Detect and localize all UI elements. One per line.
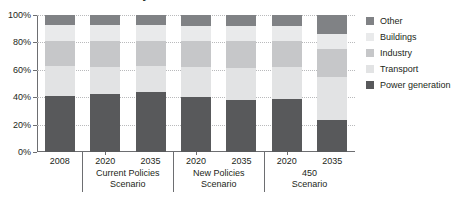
legend-swatch-icon bbox=[366, 81, 374, 89]
bar-segment-power-generation[interactable] bbox=[181, 97, 211, 152]
bar-segment-buildings[interactable] bbox=[45, 25, 75, 41]
bar-segment-other[interactable] bbox=[90, 15, 120, 25]
y-tick-mark bbox=[33, 70, 37, 71]
bar-segment-transport[interactable] bbox=[226, 68, 256, 100]
bar-segment-transport[interactable] bbox=[317, 77, 347, 121]
bar-segment-other[interactable] bbox=[317, 15, 347, 34]
bar-segment-transport[interactable] bbox=[181, 67, 211, 97]
x-tick-label: 2020 bbox=[277, 156, 297, 166]
bar-segment-power-generation[interactable] bbox=[226, 100, 256, 152]
x-tick-label: 2020 bbox=[95, 156, 115, 166]
group-label: New Policies Scenario bbox=[193, 168, 245, 190]
bar-segment-other[interactable] bbox=[272, 15, 302, 26]
legend-label: Other bbox=[380, 16, 403, 26]
x-tick-mark bbox=[287, 152, 288, 155]
legend-swatch-icon bbox=[366, 65, 374, 73]
legend-swatch-icon bbox=[366, 49, 374, 57]
group-label: Current Policies Scenario bbox=[96, 168, 160, 190]
bar-segment-buildings[interactable] bbox=[272, 26, 302, 41]
legend-swatch-icon bbox=[366, 17, 374, 25]
bar-segment-buildings[interactable] bbox=[136, 25, 166, 41]
chart-title: by sector and scenario bbox=[36, 0, 356, 2]
bar-segment-industry[interactable] bbox=[272, 41, 302, 67]
bar-segment-other[interactable] bbox=[181, 15, 211, 26]
x-axis: 2008202020352020203520202035Current Poli… bbox=[37, 152, 355, 198]
x-tick-label: 2020 bbox=[186, 156, 206, 166]
bar-segment-industry[interactable] bbox=[90, 41, 120, 67]
bar-segment-other[interactable] bbox=[45, 15, 75, 25]
legend-item-industry[interactable]: Industry bbox=[366, 45, 456, 61]
bar-segment-power-generation[interactable] bbox=[45, 96, 75, 152]
group-separator bbox=[264, 152, 265, 192]
chart-legend: OtherBuildingsIndustryTransportPower gen… bbox=[366, 13, 456, 93]
bar-segment-industry[interactable] bbox=[136, 41, 166, 66]
legend-label: Buildings bbox=[380, 32, 417, 42]
bar-segment-buildings[interactable] bbox=[90, 25, 120, 41]
group-separator bbox=[82, 152, 83, 192]
y-tick-label: 40% bbox=[13, 92, 31, 102]
legend-label: Industry bbox=[380, 48, 412, 58]
bar-segment-power-generation[interactable] bbox=[90, 94, 120, 152]
bar-segment-other[interactable] bbox=[136, 15, 166, 25]
x-tick-label: 2035 bbox=[141, 156, 161, 166]
bar-segment-industry[interactable] bbox=[226, 41, 256, 68]
bar-2020[interactable] bbox=[90, 15, 120, 152]
legend-item-buildings[interactable]: Buildings bbox=[366, 29, 456, 45]
bar-segment-industry[interactable] bbox=[181, 41, 211, 67]
bar-2020[interactable] bbox=[181, 15, 211, 152]
bar-2035[interactable] bbox=[226, 15, 256, 152]
y-tick-mark bbox=[33, 42, 37, 43]
legend-item-transport[interactable]: Transport bbox=[366, 61, 456, 77]
group-separator bbox=[173, 152, 174, 192]
bar-2020[interactable] bbox=[272, 15, 302, 152]
x-tick-label: 2035 bbox=[231, 156, 251, 166]
bar-segment-power-generation[interactable] bbox=[272, 99, 302, 152]
bar-segment-buildings[interactable] bbox=[317, 34, 347, 49]
plot-area: 0%20%40%60%80%100% bbox=[37, 15, 355, 152]
x-tick-mark bbox=[105, 152, 106, 155]
legend-label: Power generation bbox=[380, 80, 451, 90]
bar-segment-other[interactable] bbox=[226, 15, 256, 26]
bar-segment-power-generation[interactable] bbox=[136, 92, 166, 152]
y-tick-mark bbox=[33, 125, 37, 126]
legend-item-power-generation[interactable]: Power generation bbox=[366, 77, 456, 93]
y-tick-mark bbox=[33, 97, 37, 98]
x-tick-label: 2035 bbox=[322, 156, 342, 166]
x-tick-label: 2008 bbox=[50, 156, 70, 166]
bar-2008[interactable] bbox=[45, 15, 75, 152]
y-tick-label: 0% bbox=[18, 147, 31, 157]
y-tick-label: 80% bbox=[13, 37, 31, 47]
chart-figure: by sector and scenario 0%20%40%60%80%100… bbox=[0, 0, 456, 198]
group-label: 450 Scenario bbox=[292, 168, 328, 190]
y-tick-label: 100% bbox=[8, 10, 31, 20]
bar-2035[interactable] bbox=[317, 15, 347, 152]
legend-item-other[interactable]: Other bbox=[366, 13, 456, 29]
bar-segment-industry[interactable] bbox=[45, 41, 75, 66]
bar-segment-industry[interactable] bbox=[317, 49, 347, 76]
bar-segment-transport[interactable] bbox=[90, 67, 120, 94]
y-tick-mark bbox=[33, 15, 37, 16]
legend-label: Transport bbox=[380, 64, 418, 74]
legend-swatch-icon bbox=[366, 33, 374, 41]
x-tick-mark bbox=[196, 152, 197, 155]
bar-segment-transport[interactable] bbox=[272, 67, 302, 99]
bar-segment-buildings[interactable] bbox=[226, 26, 256, 41]
bar-segment-buildings[interactable] bbox=[181, 26, 211, 41]
bar-segment-transport[interactable] bbox=[136, 66, 166, 92]
bar-segment-power-generation[interactable] bbox=[317, 120, 347, 152]
bar-segment-transport[interactable] bbox=[45, 66, 75, 96]
y-tick-label: 60% bbox=[13, 65, 31, 75]
y-tick-label: 20% bbox=[13, 120, 31, 130]
bar-2035[interactable] bbox=[136, 15, 166, 152]
